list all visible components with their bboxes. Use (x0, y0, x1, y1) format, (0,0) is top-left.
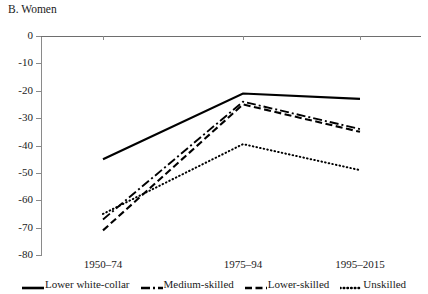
legend-label: Medium-skilled (164, 278, 234, 291)
legend-swatch-icon (340, 279, 362, 289)
y-axis-tick-label: -10 (3, 57, 33, 68)
plot-area (41, 36, 421, 255)
chart-legend: Lower white-collarMedium-skilledLower-sk… (0, 276, 428, 292)
x-axis-tick-label: 1975–94 (224, 258, 263, 271)
x-axis-tick-label: 1950–74 (84, 258, 123, 271)
series-line (103, 144, 360, 214)
y-axis-tick-label: -40 (3, 140, 33, 151)
legend-item[interactable]: Medium-skilled (141, 278, 234, 291)
legend-label: Lower white-collar (45, 278, 130, 291)
y-axis-tick-label: -80 (3, 249, 33, 260)
series-line (103, 102, 360, 220)
y-axis-tick-label: -50 (3, 167, 33, 178)
legend-item[interactable]: Lower-skilled (245, 278, 329, 291)
series-lines (41, 36, 421, 255)
y-axis-tick-label: -30 (3, 112, 33, 123)
y-axis-tick-label: -60 (3, 194, 33, 205)
y-axis-tick-label: 0 (3, 30, 33, 41)
legend-label: Unskilled (363, 278, 406, 291)
y-axis-tick-labels: 0-10-20-30-40-50-60-70-80 (0, 0, 33, 294)
y-axis-tick-label: -70 (3, 222, 33, 233)
legend-item[interactable]: Lower white-collar (22, 278, 130, 291)
y-axis-tick-label: -20 (3, 85, 33, 96)
x-axis-tick-label: 1995–2015 (335, 258, 385, 271)
legend-item[interactable]: Unskilled (340, 278, 406, 291)
legend-swatch-icon (245, 279, 267, 289)
legend-label: Lower-skilled (268, 278, 329, 291)
legend-swatch-icon (141, 279, 163, 289)
series-line (103, 104, 360, 230)
legend-swatch-icon (22, 279, 44, 289)
chart-figure: B. Women 0-10-20-30-40-50-60-70-80 1950–… (0, 0, 428, 294)
